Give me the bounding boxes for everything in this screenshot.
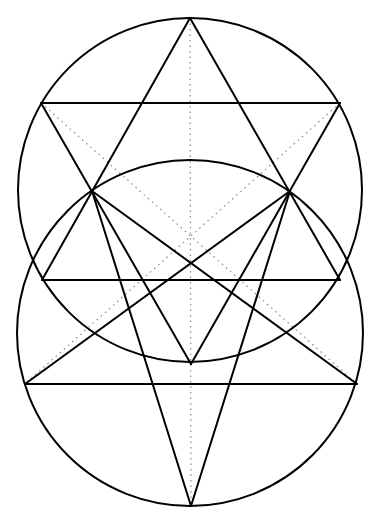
dotted-line-hex_ur-pent_l xyxy=(25,103,340,384)
dotted-line-hex_ul-pent_r xyxy=(41,103,357,384)
line-hex_ur-hex_bottom xyxy=(191,103,340,364)
line-hex_l-pent_r xyxy=(92,191,357,384)
figure-lines xyxy=(25,18,357,506)
line-hex_r-pent_l xyxy=(25,191,290,384)
line-hex_ul-hex_bottom xyxy=(41,103,191,364)
line-top-hex_ll xyxy=(42,18,190,280)
line-top-hex_lr xyxy=(190,18,340,280)
geometric-diagram xyxy=(0,0,381,516)
line-hex_l-bottom xyxy=(92,191,191,506)
line-hex_r-bottom xyxy=(191,191,290,506)
